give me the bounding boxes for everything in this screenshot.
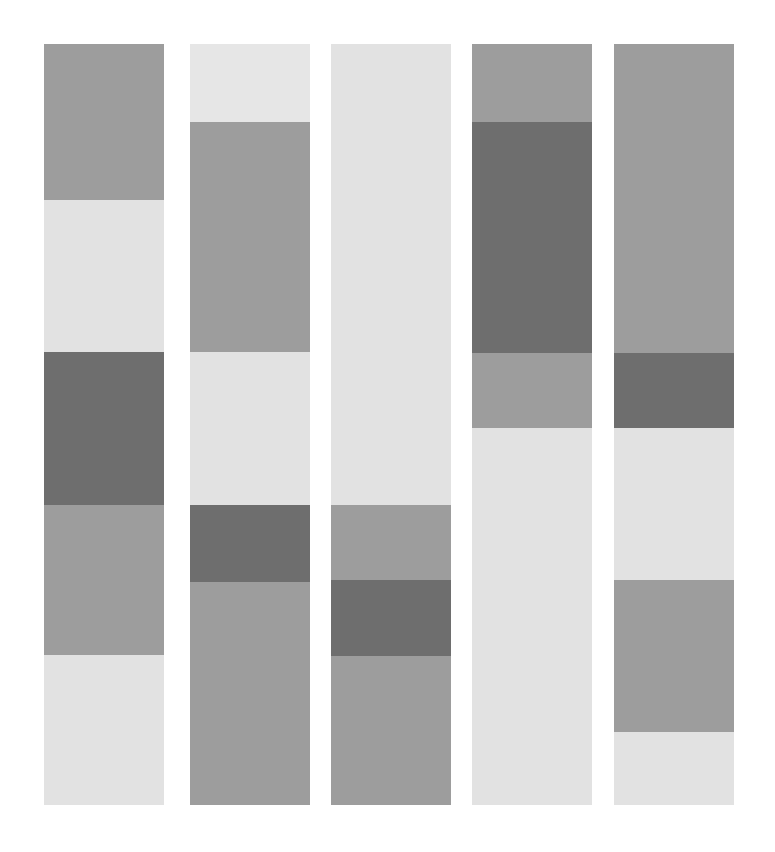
column-1-segment-3 (44, 352, 164, 505)
column-4-segment-3 (472, 353, 592, 428)
column-5-segment-5 (614, 732, 734, 805)
column-3-segment-4 (331, 656, 451, 805)
column-5-segment-1 (614, 44, 734, 353)
chart-column-2 (190, 44, 310, 805)
column-2-segment-1 (190, 44, 310, 122)
column-5-segment-4 (614, 580, 734, 732)
column-1-segment-1 (44, 44, 164, 200)
column-4-segment-1 (472, 44, 592, 122)
column-2-segment-3 (190, 352, 310, 505)
column-2-segment-2 (190, 122, 310, 352)
column-2-segment-5 (190, 582, 310, 805)
chart-column-4 (472, 44, 592, 805)
figure-canvas (0, 0, 775, 852)
column-1-segment-5 (44, 655, 164, 805)
column-4-segment-2 (472, 122, 592, 353)
chart-column-5 (614, 44, 734, 805)
column-1-segment-4 (44, 505, 164, 655)
column-3-segment-3 (331, 580, 451, 656)
column-3-segment-1 (331, 44, 451, 505)
column-5-segment-2 (614, 353, 734, 428)
column-1-segment-2 (44, 200, 164, 352)
column-2-segment-4 (190, 505, 310, 582)
column-4-segment-4 (472, 428, 592, 805)
chart-column-3 (331, 44, 451, 805)
column-5-segment-3 (614, 428, 734, 580)
column-3-segment-2 (331, 505, 451, 580)
chart-column-1 (44, 44, 164, 805)
